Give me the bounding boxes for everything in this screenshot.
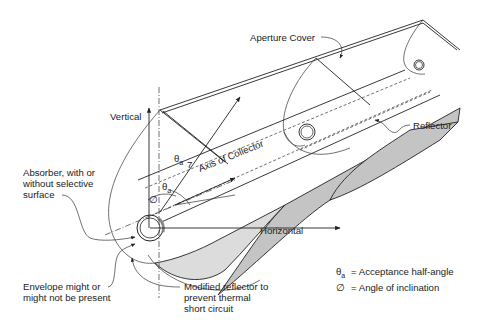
legend-item-acceptance: θa = Acceptance half-angle <box>336 266 454 279</box>
phi-label: ∅ <box>149 194 158 205</box>
svg-text:∅: ∅ <box>336 282 345 293</box>
reflector-label: Reflector <box>413 120 452 131</box>
vertical-label: Vertical <box>110 111 141 122</box>
aperture-cover-label: Aperture Cover <box>250 32 316 43</box>
svg-text:θa: θa <box>336 266 345 279</box>
svg-text:Absorber, with or: Absorber, with or <box>23 167 96 178</box>
absorber-leader <box>62 195 135 240</box>
svg-text:= Acceptance half-angle: = Acceptance half-angle <box>351 266 454 277</box>
svg-text:short circuit: short circuit <box>184 303 233 314</box>
tube-end-far <box>414 60 424 70</box>
svg-text:without selective: without selective <box>22 178 93 189</box>
axis-of-collector-label: Axis of Collector <box>197 137 266 173</box>
svg-text:Envelope might or: Envelope might or <box>23 281 101 292</box>
horizontal-label: Horizontal <box>260 225 303 236</box>
theta-a-lower: θa <box>162 181 171 194</box>
svg-text:prevent thermal: prevent thermal <box>184 292 251 303</box>
svg-text:= Angle of inclination: = Angle of inclination <box>351 282 439 293</box>
legend-item-inclination: ∅ = Angle of inclination <box>336 282 439 293</box>
cpc-collector-diagram: θa 7 θa ∅ Vertical Axis of Collector Hor… <box>0 0 483 325</box>
envelope-label: Envelope might or might not be present <box>23 281 111 303</box>
reflector-leader <box>375 120 410 133</box>
svg-text:7: 7 <box>187 159 192 170</box>
svg-text:Modified reflector to: Modified reflector to <box>184 281 268 292</box>
svg-text:might not be present: might not be present <box>23 292 111 303</box>
svg-text:surface: surface <box>23 189 54 200</box>
envelope-leader <box>108 244 135 287</box>
theta-a-upper: θa <box>174 153 183 166</box>
legend: θa = Acceptance half-angle ∅ = Angle of … <box>336 266 454 293</box>
absorber-label: Absorber, with or without selective surf… <box>22 167 96 200</box>
modified-reflector-label: Modified reflector to prevent thermal sh… <box>184 281 268 314</box>
tube-end-middle <box>299 124 315 140</box>
